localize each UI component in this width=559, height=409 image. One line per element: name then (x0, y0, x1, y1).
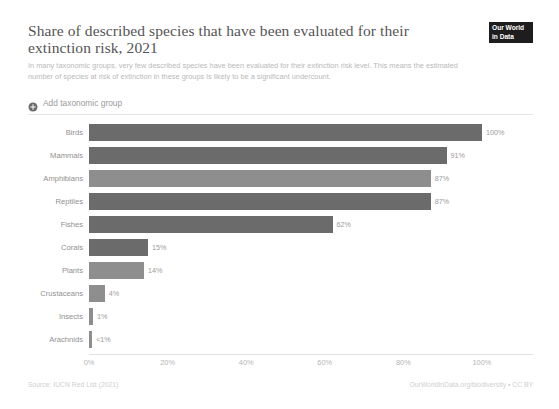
bar-track: 91% (89, 144, 533, 167)
x-axis-tick: 100% (472, 358, 491, 367)
bar-segment[interactable] (89, 239, 148, 256)
bar-segment[interactable] (89, 124, 482, 141)
owid-logo-line-2: in Data (492, 33, 530, 42)
bar-row: Reptiles87% (28, 190, 533, 213)
bar-track: 87% (89, 167, 533, 190)
page-title: Share of described species that have bee… (28, 22, 533, 56)
bar-track: 15% (89, 236, 533, 259)
bar-track: 1% (89, 305, 533, 328)
bar-category-label: Arachnids (28, 335, 89, 344)
bar-track: 62% (89, 213, 533, 236)
add-taxonomic-group-button[interactable]: Add taxonomic group (28, 98, 122, 108)
bar-row: Crustaceans4% (28, 282, 533, 305)
bar-value-label: <1% (96, 335, 111, 344)
bar-row: Birds100% (28, 121, 533, 144)
bar-value-label: 100% (486, 128, 504, 137)
bar-category-label: Crustaceans (28, 289, 89, 298)
chart-card: Share of described species that have bee… (0, 0, 559, 409)
x-axis-track: 0%20%40%60%80%100% (89, 354, 533, 370)
bar-category-label: Amphibians (28, 174, 89, 183)
owid-logo[interactable]: Our World in Data (489, 22, 533, 43)
bar-category-label: Corals (28, 243, 89, 252)
header-divider (28, 114, 533, 115)
bar-value-label: 14% (148, 266, 162, 275)
bar-track: 100% (89, 121, 533, 144)
plus-circle-icon (28, 98, 38, 108)
add-taxonomic-group-label: Add taxonomic group (43, 98, 122, 108)
chart-footer: Source: IUCN Red List (2021) OurWorldInD… (28, 381, 533, 388)
chart-subtitle: In many taxonomic groups, very few descr… (28, 61, 533, 82)
bar-category-label: Mammals (28, 151, 89, 160)
bar-segment[interactable] (89, 331, 92, 348)
bar-segment[interactable] (89, 216, 333, 233)
bar-row: Corals15% (28, 236, 533, 259)
bar-value-label: 1% (97, 312, 107, 321)
bar-row: Mammals91% (28, 144, 533, 167)
owid-logo-line-1: Our World (492, 24, 530, 33)
bar-value-label: 62% (337, 220, 351, 229)
bar-rows: Birds100%Mammals91%Amphibians87%Reptiles… (28, 121, 533, 351)
bar-value-label: 15% (152, 243, 166, 252)
bar-value-label: 91% (451, 151, 465, 160)
source-note[interactable]: Source: IUCN Red List (2021) (28, 381, 118, 388)
bar-segment[interactable] (89, 193, 431, 210)
bar-category-label: Reptiles (28, 197, 89, 206)
bar-track: 4% (89, 282, 533, 305)
bar-value-label: 4% (109, 289, 119, 298)
bar-track: 87% (89, 190, 533, 213)
bar-category-label: Birds (28, 128, 89, 137)
bar-value-label: 87% (435, 174, 449, 183)
x-axis-line (89, 354, 533, 355)
bar-value-label: 87% (435, 197, 449, 206)
x-axis-tick: 20% (160, 358, 175, 367)
x-axis-tick: 40% (239, 358, 254, 367)
attribution-note[interactable]: OurWorldInData.org/biodiversity • CC BY (409, 381, 533, 388)
bar-row: Insects1% (28, 305, 533, 328)
bar-segment[interactable] (89, 308, 93, 325)
bar-segment[interactable] (89, 285, 105, 302)
x-axis-tick: 0% (84, 358, 95, 367)
bar-track: 14% (89, 259, 533, 282)
bar-row: Amphibians87% (28, 167, 533, 190)
x-axis-tick: 60% (317, 358, 332, 367)
bar-row: Arachnids<1% (28, 328, 533, 351)
bar-segment[interactable] (89, 147, 447, 164)
x-axis: 0%20%40%60%80%100% (28, 354, 533, 370)
axis-left-spacer (28, 354, 89, 370)
bar-segment[interactable] (89, 170, 431, 187)
bar-row: Plants14% (28, 259, 533, 282)
bar-category-label: Fishes (28, 220, 89, 229)
bar-category-label: Plants (28, 266, 89, 275)
x-axis-tick: 80% (396, 358, 411, 367)
chart-header: Share of described species that have bee… (28, 22, 533, 82)
bar-row: Fishes62% (28, 213, 533, 236)
bar-category-label: Insects (28, 312, 89, 321)
bar-chart: Birds100%Mammals91%Amphibians87%Reptiles… (28, 121, 533, 370)
bar-track: <1% (89, 328, 533, 351)
bar-segment[interactable] (89, 262, 144, 279)
